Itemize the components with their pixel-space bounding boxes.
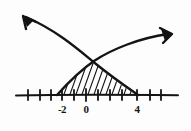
tick-label-zero: 0	[84, 103, 89, 115]
sketch-figure: -2 0 4	[0, 0, 191, 131]
tick-label-minus-2: -2	[58, 103, 66, 115]
tick-label-four: 4	[135, 103, 140, 115]
sketch-canvas	[0, 0, 191, 131]
